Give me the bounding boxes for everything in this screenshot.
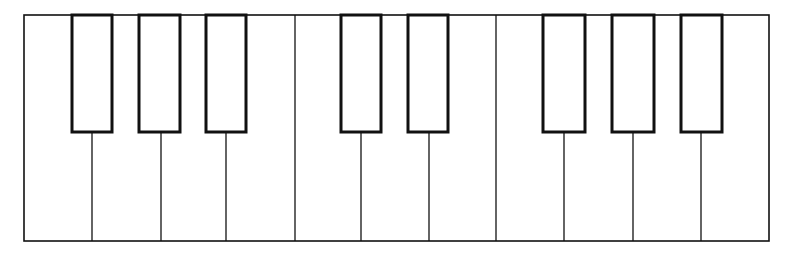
black-key [206, 15, 246, 132]
white-key-dividers [92, 15, 701, 241]
black-key [139, 15, 180, 132]
piano-keyboard-diagram [0, 0, 787, 258]
black-key [612, 15, 654, 132]
black-key [408, 15, 448, 132]
black-key [543, 15, 585, 132]
black-key [681, 15, 722, 132]
black-key [72, 15, 112, 132]
keyboard-frame [24, 15, 769, 241]
black-keys [72, 15, 722, 132]
black-key [341, 15, 381, 132]
